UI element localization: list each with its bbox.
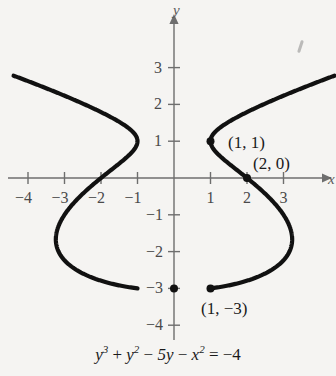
equation-term: x: [192, 345, 200, 364]
marked-points-group: [170, 137, 251, 292]
y-tick-label: −2: [146, 244, 163, 260]
equation-term: y: [126, 345, 134, 364]
point-label-2-0: (2, 0): [253, 155, 290, 172]
y-axis-label: y: [173, 3, 180, 18]
x-tick-label: 3: [280, 190, 288, 206]
x-tick-label: 2: [243, 190, 251, 206]
plot-canvas: [0, 0, 336, 376]
x-tick-label: −4: [15, 190, 32, 206]
axes-group: [8, 14, 332, 340]
equation-term: 5y: [157, 345, 173, 364]
equation-operator: = −4: [205, 345, 241, 364]
equation-caption: y3 + y2 − 5y − x2 = −4: [0, 345, 336, 365]
x-tick-label: 1: [207, 190, 215, 206]
x-tick-label: −1: [125, 190, 142, 206]
y-tick-label: −3: [146, 280, 163, 296]
x-tick-label: −2: [88, 190, 105, 206]
point-label-1-1: (1, 1): [228, 134, 265, 151]
y-tick-label: 2: [154, 96, 162, 112]
y-tick-label: 3: [154, 60, 162, 76]
equation-operator: +: [108, 345, 126, 364]
point-label-1-neg3: (1, −3): [201, 300, 247, 317]
y-tick-label: −4: [146, 317, 163, 333]
x-tick-label: −3: [52, 190, 69, 206]
equation-operator: −: [139, 345, 157, 364]
x-axis-label: x: [328, 172, 335, 187]
y-tick-label: −1: [146, 207, 163, 223]
graph-figure: −4−3−2−1123321−1−2−3−4 y x (1, 1)(2, 0)(…: [0, 0, 336, 376]
curve-right-branch: [211, 76, 335, 289]
equation-operator: −: [174, 345, 192, 364]
marked-point-2-0: [243, 174, 251, 182]
marked-point-1-neg3: [207, 284, 215, 292]
y-tick-label: 1: [154, 133, 162, 149]
curve-left-branch: [14, 76, 138, 289]
marked-point-1-1: [207, 137, 215, 145]
equation-term: y: [95, 345, 103, 364]
marked-point-0-neg3: [170, 284, 178, 292]
